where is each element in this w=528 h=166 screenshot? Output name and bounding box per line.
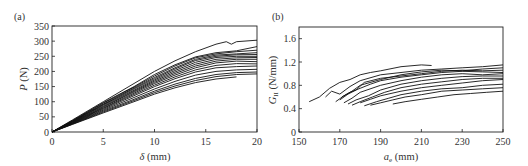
y-tick-label: 1.6 [284,33,297,44]
x-tick-label: 210 [414,136,429,147]
figure: (a) 050100150200250300350 05101520 P (N)… [0,0,528,166]
y-tick-label: 250 [34,51,49,62]
y-tick-label: 100 [34,96,49,107]
y-axis-label-a: P (N) [18,67,30,92]
y-tick-label: 300 [34,36,49,47]
x-tick-label: 0 [50,136,55,147]
y-tick-label: 350 [34,21,49,32]
x-tick-label: 150 [292,136,307,147]
y-tick-label: 0.4 [284,103,297,114]
y-tick-label: 0.8 [284,80,297,91]
curves-a [52,40,257,132]
panel-label-a: (a) [14,11,25,23]
x-tick-label: 5 [101,136,106,147]
y-tick-label: 0 [44,127,49,138]
x-axis-label-b: ae (mm) [384,151,419,164]
x-tick-label: 170 [332,136,347,147]
x-tick-label: 190 [373,136,388,147]
x-axis-label-a: δ (mm) [140,151,171,163]
y-tick-label: 1.2 [284,57,297,68]
x-tick-label: 250 [496,136,511,147]
chart-a: (a) 050100150200250300350 05101520 P (N)… [14,11,262,163]
x-tick-label: 10 [150,136,160,147]
y-tick-label: 150 [34,81,49,92]
x-tick-label: 20 [252,136,262,147]
x-tick-label: 230 [455,136,470,147]
y-tick-label: 200 [34,66,49,77]
y-tick-label: 50 [39,111,49,122]
x-tick-label: 15 [201,136,211,147]
y-axis-label-b: GII (N/mm) [267,55,280,104]
plot-frame-b [299,27,503,132]
chart-b: (b) 00.40.81.21.6 150170190210230250 GII… [267,11,511,164]
curves-b [309,65,503,106]
panel-label-b: (b) [272,11,284,23]
